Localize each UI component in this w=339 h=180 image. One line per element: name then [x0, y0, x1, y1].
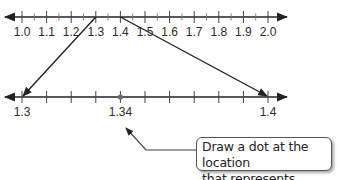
connector-left-arrow [23, 17, 96, 96]
top-label-1-0: 1.0 [14, 25, 31, 39]
top-label-1-7: 1.7 [186, 25, 203, 39]
top-label-2-0: 2.0 [260, 25, 277, 39]
bottom-label-1-4: 1.4 [260, 105, 277, 119]
dot-1-34 [118, 94, 123, 99]
top-number-line [5, 11, 287, 23]
top-label-1-1: 1.1 [38, 25, 55, 39]
top-label-1-8: 1.8 [210, 25, 227, 39]
bottom-label-1-3: 1.3 [14, 105, 31, 119]
bottom-label-1-34: 1.34 [109, 105, 132, 119]
top-label-1-2: 1.2 [63, 25, 80, 39]
callout-line-2: that represents 1.34. [202, 171, 326, 180]
top-label-1-5: 1.5 [137, 25, 154, 39]
top-label-1-4: 1.4 [112, 25, 129, 39]
top-label-1-6: 1.6 [161, 25, 178, 39]
callout-line-1: Draw a dot at the location [202, 139, 326, 171]
instruction-callout: Draw a dot at the location that represen… [196, 137, 332, 171]
top-label-1-9: 1.9 [235, 25, 252, 39]
bottom-number-line [5, 91, 287, 103]
top-label-1-3: 1.3 [87, 25, 104, 39]
callout-pointer [126, 128, 197, 150]
